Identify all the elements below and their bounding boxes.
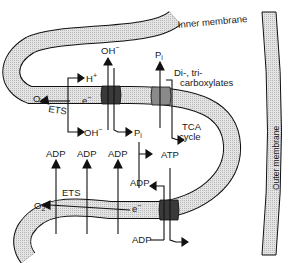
o2-lower-label: O2 [34,200,45,212]
atp-label: ATP [161,149,179,160]
carrier-pi [151,87,171,105]
adp-label-3: ADP [108,148,128,159]
ets-lower-label: ETS [62,187,80,198]
ets-upper-label: ETS [48,103,68,116]
carrier-atp-adp [159,200,179,220]
e-minus-upper-label: e− [82,94,91,106]
oh-bottom-label: OH− [84,126,102,138]
carrier-oh [101,86,121,104]
adp-label-2: ADP [77,148,97,159]
oh-top-label: OH− [101,44,119,56]
pi-top-label: Pi [155,49,163,61]
adp-bottom-label: ADP [132,234,152,245]
adp-label-1: ADP [46,148,66,159]
tca-label-2: cycle [179,131,201,142]
pi-bottom-label: Pi [134,127,142,139]
h-plus-label: H+ [86,72,97,84]
outer-membrane-label: Outer membrane [271,125,281,190]
adp-mid-label: ADP [130,177,150,188]
mitochondrial-transport-diagram: Inner membrane Outer membrane H+ OH− Pi … [0,0,292,263]
inner-membrane-label: Inner membrane [177,13,247,30]
di-tri-label-2: carboxylates [180,77,234,88]
